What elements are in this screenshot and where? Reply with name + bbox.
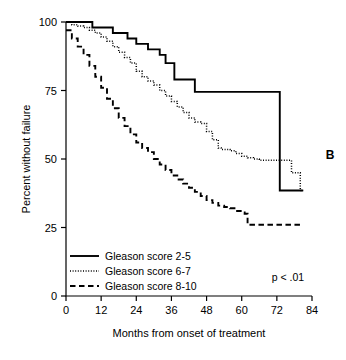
y-tick-label: 75 <box>45 85 57 97</box>
y-tick-labels: 0255075100 <box>39 16 57 302</box>
x-tick-label: 48 <box>200 304 212 316</box>
panel-label-b: B <box>326 148 335 162</box>
legend-label-gleason-2-5: Gleason score 2-5 <box>105 250 191 262</box>
x-tick-label: 60 <box>236 304 248 316</box>
legend-item-gleason-8-10: Gleason score 8-10 <box>70 280 197 292</box>
series-gleason-6-7-curve <box>66 22 303 191</box>
x-tick-marks <box>66 296 312 301</box>
legend-item-gleason-2-5: Gleason score 2-5 <box>70 250 191 262</box>
x-tick-label: 36 <box>165 304 177 316</box>
legend-item-gleason-6-7: Gleason score 6-7 <box>70 265 191 277</box>
x-tick-label: 0 <box>63 304 69 316</box>
p-value-annotation: p < .01 <box>272 271 305 283</box>
x-tick-label: 84 <box>306 304 318 316</box>
x-axis-title: Months from onset of treatment <box>113 327 266 339</box>
legend-label-gleason-6-7: Gleason score 6-7 <box>105 265 191 277</box>
y-tick-label: 0 <box>51 290 57 302</box>
series-gleason-8-10-curve <box>66 30 303 225</box>
y-axis-title: Percent without failure <box>20 105 32 214</box>
x-tick-label: 12 <box>95 304 107 316</box>
y-tick-marks <box>61 22 66 296</box>
y-tick-label: 50 <box>45 153 57 165</box>
y-tick-label: 100 <box>39 16 57 28</box>
chart-legend: Gleason score 2-5 Gleason score 6-7 Glea… <box>70 250 197 292</box>
data-curves <box>66 22 303 225</box>
km-plot-svg: 012243648607284 0255075100 Months from o… <box>0 0 346 360</box>
km-survival-figure: 012243648607284 0255075100 Months from o… <box>0 0 346 360</box>
x-tick-labels: 012243648607284 <box>63 304 318 316</box>
series-gleason-2-5-curve <box>66 22 303 191</box>
x-tick-label: 24 <box>130 304 142 316</box>
legend-label-gleason-8-10: Gleason score 8-10 <box>105 280 197 292</box>
y-tick-label: 25 <box>45 222 57 234</box>
x-tick-label: 72 <box>271 304 283 316</box>
